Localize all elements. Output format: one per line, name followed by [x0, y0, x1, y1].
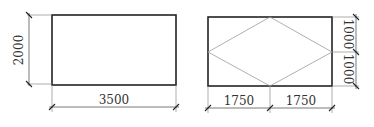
outer-rectangle	[52, 15, 176, 85]
right-height-dimensions: 1000 1000	[332, 14, 359, 89]
plain-rectangle-figure: 2000 3500	[12, 12, 179, 112]
rhombus-rectangle-figure: 1000 1000 1750 1750	[205, 14, 359, 113]
right-upper-label: 1000	[341, 19, 355, 50]
height-dimension: 2000	[12, 12, 52, 87]
right-lower-label: 1000	[341, 54, 355, 85]
diagram-canvas: 2000 3500 1000 1000	[0, 0, 374, 127]
height-label: 2000	[12, 35, 26, 66]
bottom-right-label: 1750	[286, 94, 317, 108]
width-dimension: 3500	[49, 85, 179, 112]
outer-rectangle	[208, 17, 332, 86]
inscribed-rhombus	[208, 17, 332, 86]
width-label: 3500	[99, 93, 130, 107]
bottom-width-dimensions: 1750 1750	[205, 86, 335, 113]
bottom-left-label: 1750	[224, 94, 255, 108]
